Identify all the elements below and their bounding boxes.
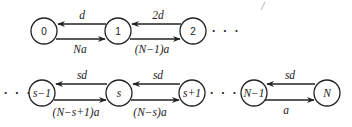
stray-mark bbox=[261, 2, 265, 10]
state-node-N-1: N−1 bbox=[241, 80, 267, 106]
edge-label-2d: 2d bbox=[152, 9, 164, 21]
state-node-s+1: s+1 bbox=[179, 80, 205, 106]
state-node-2: 2 bbox=[180, 18, 206, 44]
edge-label-N-1-a: (N−1)a bbox=[135, 43, 170, 56]
svg-text:0: 0 bbox=[41, 26, 47, 37]
state-node-N: N bbox=[314, 80, 340, 106]
row2-middle-ellipsis: · · · bbox=[210, 86, 239, 100]
markov-chain-diagram: d Na 2d (N−1)a 0 1 2 · · · · · · sd (N−s… bbox=[0, 0, 352, 127]
edge-label-sd-1: sd bbox=[77, 69, 87, 81]
svg-text:s+1: s+1 bbox=[183, 87, 201, 99]
edge-label-N-s-a: (N−s)a bbox=[133, 106, 167, 119]
state-node-s: s bbox=[106, 80, 132, 106]
edge-label-Na: Na bbox=[72, 43, 87, 55]
edge-label-sd-3: sd bbox=[285, 69, 295, 81]
state-node-s-1: s−1 bbox=[29, 80, 55, 106]
svg-text:N−1: N−1 bbox=[242, 87, 264, 99]
edge-label-a: a bbox=[283, 104, 289, 116]
edge-label-sd-2: sd bbox=[153, 69, 163, 81]
edge-label-N-s-plus-1-a: (N−s+1)a bbox=[53, 106, 100, 119]
row1-trailing-ellipsis: · · · bbox=[212, 24, 241, 38]
svg-text:1: 1 bbox=[115, 26, 121, 37]
state-node-1: 1 bbox=[105, 18, 131, 44]
svg-text:N: N bbox=[322, 87, 332, 99]
svg-text:2: 2 bbox=[190, 26, 196, 37]
edge-label-d: d bbox=[79, 9, 85, 21]
state-node-0: 0 bbox=[31, 18, 57, 44]
svg-text:s−1: s−1 bbox=[33, 87, 51, 99]
svg-text:s: s bbox=[117, 87, 122, 99]
